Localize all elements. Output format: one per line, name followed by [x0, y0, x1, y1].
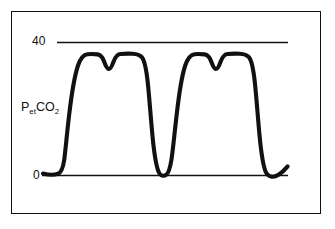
y-tick-label-0: 0 [33, 169, 40, 181]
capnography-figure: 40 0 PetCO2 [0, 0, 335, 229]
capnogram-waveform-trace [43, 54, 288, 177]
capnogram-plot [0, 0, 335, 229]
y-tick-label-40: 40 [32, 35, 46, 47]
y-axis-label-co: CO [36, 100, 55, 114]
y-axis-label-2-subscript: 2 [55, 107, 59, 116]
y-axis-label-et-subscript: et [29, 107, 36, 116]
y-axis-label: PetCO2 [21, 101, 59, 114]
